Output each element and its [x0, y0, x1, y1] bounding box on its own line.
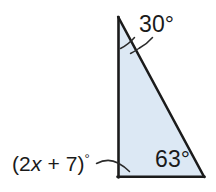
apex-leader-line	[140, 38, 153, 49]
degree-symbol: °	[85, 151, 90, 166]
angle-expression-suffix: + 7)	[41, 152, 84, 175]
geometry-figure: 30° 63° (2x + 7)°	[0, 0, 216, 192]
bottom-right-angle-label: 63°	[155, 148, 190, 171]
apex-angle-label: 30°	[139, 13, 174, 36]
bottom-left-leader-line	[97, 160, 119, 163]
angle-expression-variable: x	[31, 152, 42, 175]
bottom-left-angle-label: (2x + 7)°	[12, 152, 90, 174]
angle-expression-prefix: (2	[12, 152, 31, 175]
